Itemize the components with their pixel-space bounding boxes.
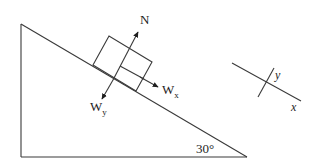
- incline-slope: [21, 24, 247, 157]
- normal-force-arrow: [113, 32, 138, 80]
- weight-y-arrow: [102, 80, 113, 99]
- x-axis-label: x: [290, 100, 297, 114]
- inclined-plane: [21, 24, 247, 157]
- weight-x-arrow: [140, 77, 158, 87]
- angle-label: 30°: [196, 141, 214, 156]
- weight-y-label: Wy: [90, 99, 107, 117]
- weight-x-label: Wx: [162, 82, 179, 100]
- block: [93, 36, 152, 91]
- free-body-diagram: 30° N Wx Wy y x: [0, 0, 320, 165]
- normal-force-label: N: [140, 12, 150, 27]
- y-axis-label: y: [274, 68, 281, 82]
- block-outline: [93, 36, 152, 91]
- y-axis-line: [258, 68, 274, 97]
- rotated-axes: [232, 63, 301, 101]
